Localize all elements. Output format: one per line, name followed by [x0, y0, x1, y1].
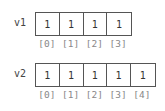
vector-cells: 1 1 1 1: [35, 12, 132, 36]
vector-indices: [0] [1] [2] [3] [4]: [35, 89, 154, 100]
index-label: [2]: [83, 38, 107, 49]
index-label: [4]: [130, 89, 154, 100]
vector-cells: 1 1 1 1 1: [35, 63, 156, 87]
vector-cell: 1: [131, 64, 155, 86]
vector-cell: 1: [36, 64, 60, 86]
vector-cell: 1: [60, 13, 84, 35]
vector-cell: 1: [84, 13, 108, 35]
vector-cell: 1: [107, 64, 131, 86]
index-label: [0]: [35, 38, 59, 49]
vector-cell: 1: [60, 64, 84, 86]
index-label: [2]: [83, 89, 107, 100]
index-label: [1]: [59, 38, 83, 49]
vector-label: v1: [14, 17, 26, 28]
index-label: [1]: [59, 89, 83, 100]
vector-indices: [0] [1] [2] [3]: [35, 38, 130, 49]
vector-cell: 1: [107, 13, 131, 35]
index-label: [0]: [35, 89, 59, 100]
vector-cell: 1: [84, 64, 108, 86]
index-label: [3]: [106, 38, 130, 49]
vector-label: v2: [14, 68, 26, 79]
index-label: [3]: [106, 89, 130, 100]
vector-cell: 1: [36, 13, 60, 35]
